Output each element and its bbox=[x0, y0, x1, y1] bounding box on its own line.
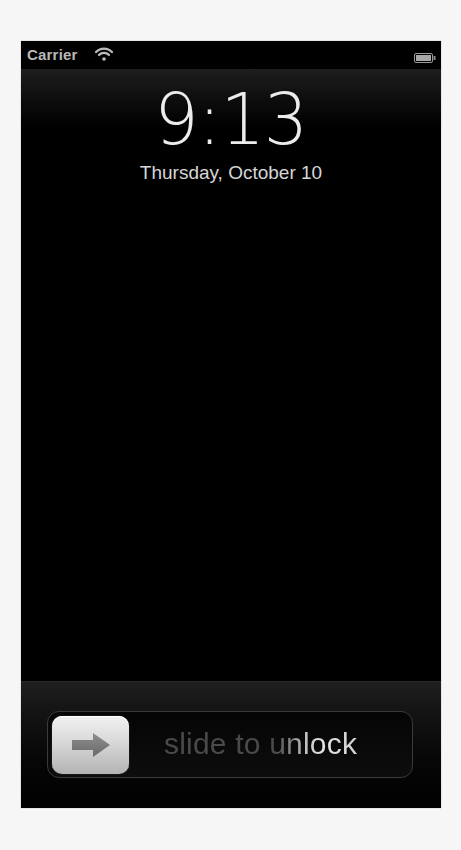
arrow-right-icon bbox=[70, 731, 112, 759]
lock-date: Thursday, October 10 bbox=[21, 161, 441, 185]
battery-icon bbox=[414, 49, 436, 59]
lock-screen: Carrier 9:13 Thursday, October 10 bbox=[21, 41, 441, 808]
unlock-slider-knob[interactable] bbox=[52, 716, 129, 774]
slide-to-unlock-label: slide to unlock bbox=[164, 726, 357, 762]
time-text: 9:13 bbox=[155, 79, 308, 159]
lock-time: 9:13 bbox=[21, 79, 441, 159]
unlock-bar: slide to unlock bbox=[21, 681, 441, 808]
status-bar: Carrier bbox=[21, 41, 441, 69]
unlock-slider-track[interactable]: slide to unlock bbox=[47, 711, 413, 778]
carrier-label: Carrier bbox=[27, 46, 78, 63]
wifi-icon bbox=[95, 47, 113, 61]
